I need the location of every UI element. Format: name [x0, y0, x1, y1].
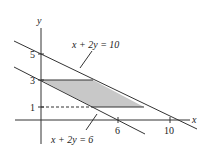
x-tick-label-6: 6: [115, 125, 120, 136]
x-axis-label: x: [191, 114, 197, 125]
diagram-canvas: 5 3 1 6 10 x y x + 2y = 10 x + 2y = 6: [0, 0, 205, 150]
shaded-region: [41, 80, 144, 107]
equation-label-6: x + 2y = 6: [50, 134, 93, 145]
y-axis-label: y: [36, 15, 42, 26]
y-tick-label-1: 1: [30, 102, 35, 113]
leader-line-10: [80, 51, 92, 68]
x-tick-label-10: 10: [164, 125, 174, 136]
y-tick-label-5: 5: [30, 49, 35, 60]
leader-line-6: [86, 114, 97, 130]
y-tick-label-3: 3: [30, 75, 35, 86]
equation-label-10: x + 2y = 10: [71, 39, 119, 50]
